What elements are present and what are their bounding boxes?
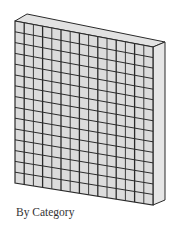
block-front-face [15,21,153,205]
caption: By Category [16,206,74,218]
block-side-face [153,42,165,205]
cube-grid-diagram [0,0,175,235]
